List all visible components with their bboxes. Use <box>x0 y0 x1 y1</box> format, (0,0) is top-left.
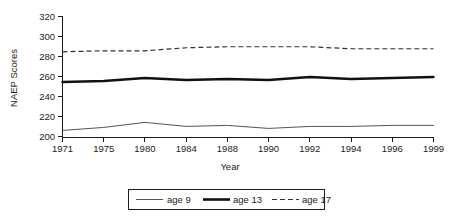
chart-canvas: NAEP Scores 320 300 280 260 240 220 200 <box>0 0 452 217</box>
x-tick-label: 1992 <box>299 143 320 154</box>
legend-label-age-9[interactable]: age 9 <box>167 194 191 205</box>
x-axis-title: Year <box>220 161 239 172</box>
x-tick-label: 1971 <box>52 143 73 154</box>
x-tick-label: 1994 <box>341 143 362 154</box>
x-tick-label: 1984 <box>176 143 197 154</box>
x-tick-label: 1980 <box>134 143 155 154</box>
y-tick-label: 220 <box>39 111 55 122</box>
x-axis-tick-labels: 1971 1975 1980 1984 1988 1990 1992 1994 … <box>52 143 444 154</box>
y-tick-label: 320 <box>39 11 55 22</box>
x-tick-label: 1990 <box>258 143 279 154</box>
y-tick-label: 260 <box>39 71 55 82</box>
x-axis-ticks <box>63 138 434 143</box>
y-axis-ticks <box>58 17 63 137</box>
y-tick-label: 300 <box>39 31 55 42</box>
y-axis-title: NAEP Scores <box>8 49 19 107</box>
legend-label-age-13[interactable]: age 13 <box>233 194 262 205</box>
y-tick-label: 200 <box>39 131 55 142</box>
y-tick-label: 280 <box>39 51 55 62</box>
series-line-age-13 <box>63 77 434 82</box>
y-tick-label: 240 <box>39 91 55 102</box>
naep-scores-figure: NAEP Scores 320 300 280 260 240 220 200 <box>0 0 452 217</box>
x-tick-label: 1988 <box>217 143 238 154</box>
series-line-age-9 <box>63 122 434 130</box>
x-tick-label: 1999 <box>423 143 444 154</box>
series-line-age-17 <box>63 47 434 52</box>
x-tick-label: 1975 <box>93 143 114 154</box>
legend-label-age-17[interactable]: age 17 <box>302 194 331 205</box>
chart-legend: age 9 age 13 age 17 <box>129 190 332 210</box>
y-axis-tick-labels: 320 300 280 260 240 220 200 <box>39 11 55 142</box>
x-tick-label: 1996 <box>382 143 403 154</box>
